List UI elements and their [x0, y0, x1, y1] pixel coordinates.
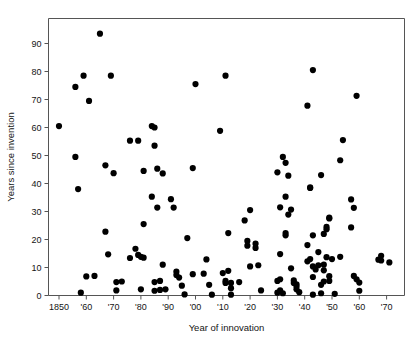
data-point: [151, 143, 157, 149]
data-point: [304, 242, 310, 248]
data-point: [141, 221, 147, 227]
data-point: [277, 251, 283, 257]
data-point: [247, 263, 253, 269]
data-point: [119, 278, 125, 284]
x-axis-tick-label: '70: [381, 302, 393, 312]
data-point: [337, 157, 343, 163]
data-point: [108, 73, 114, 79]
data-point: [280, 290, 286, 296]
data-point: [176, 274, 182, 280]
data-point: [282, 194, 288, 200]
y-axis-title: Years since invention: [5, 112, 16, 201]
data-point: [141, 168, 147, 174]
data-point: [83, 273, 89, 279]
x-axis-tick-label: 1850: [49, 302, 69, 312]
data-point: [348, 196, 354, 202]
data-point: [184, 235, 190, 241]
data-point: [228, 280, 234, 286]
data-point: [157, 287, 163, 293]
data-point: [190, 165, 196, 171]
data-point: [105, 251, 111, 257]
data-point: [160, 262, 166, 268]
data-point: [179, 283, 185, 289]
x-axis-tick-label: '20: [244, 302, 256, 312]
data-point: [86, 98, 92, 104]
data-point: [285, 173, 291, 179]
data-point: [225, 230, 231, 236]
x-axis-tick-label: '10: [217, 302, 229, 312]
y-axis-tick-label: 10: [31, 263, 41, 273]
y-axis-tick-label: 40: [31, 179, 41, 189]
data-point: [154, 166, 160, 172]
x-axis-tick-label: '60: [80, 302, 92, 312]
data-point: [149, 194, 155, 200]
data-point: [307, 185, 313, 191]
data-point: [113, 287, 119, 293]
x-axis-tick-label: '40: [299, 302, 311, 312]
data-point: [206, 282, 212, 288]
data-point: [288, 206, 294, 212]
data-point: [56, 123, 62, 129]
y-axis-tick-label: 30: [31, 207, 41, 217]
data-point: [323, 226, 329, 232]
data-point: [307, 256, 313, 262]
data-point: [277, 276, 283, 282]
x-axis-tick-label: '80: [135, 302, 147, 312]
data-point: [332, 291, 338, 297]
data-point: [321, 262, 327, 268]
y-axis-tick-label: 50: [31, 151, 41, 161]
data-point: [247, 207, 253, 213]
data-point: [141, 255, 147, 261]
x-axis-tick-label: '30: [272, 302, 284, 312]
data-point: [348, 224, 354, 230]
data-point: [113, 279, 119, 285]
data-point: [151, 279, 157, 285]
data-point: [280, 154, 286, 160]
data-point: [310, 232, 316, 238]
data-point: [222, 73, 228, 79]
data-point: [228, 285, 234, 291]
data-point: [127, 138, 133, 144]
data-point: [91, 273, 97, 279]
data-point: [181, 291, 187, 297]
data-point: [72, 154, 78, 160]
data-point: [274, 169, 280, 175]
data-point: [282, 232, 288, 238]
data-point: [220, 270, 226, 276]
data-point: [386, 259, 392, 265]
data-point: [326, 278, 332, 284]
data-point: [356, 288, 362, 294]
data-point: [315, 249, 321, 255]
y-axis-tick-label: 80: [31, 67, 41, 77]
data-point: [340, 137, 346, 143]
data-point: [162, 286, 168, 292]
data-point: [75, 186, 81, 192]
data-point: [97, 31, 103, 37]
data-point: [277, 204, 283, 210]
data-point: [356, 280, 362, 286]
x-axis-tick-label: '60: [353, 302, 365, 312]
y-axis-tick-label: 90: [31, 39, 41, 49]
data-point: [323, 254, 329, 260]
data-point: [209, 292, 215, 298]
x-axis-tick-label: '50: [326, 302, 338, 312]
data-point: [203, 256, 209, 262]
data-point: [102, 229, 108, 235]
data-point: [326, 215, 332, 221]
x-axis-tick-label: '90: [162, 302, 174, 312]
data-point: [201, 271, 207, 277]
data-point: [258, 287, 264, 293]
data-point: [171, 204, 177, 210]
data-point: [151, 288, 157, 294]
x-axis-title: Year of innovation: [189, 322, 265, 333]
y-axis-tick-label: 60: [31, 123, 41, 133]
data-point: [154, 204, 160, 210]
x-axis-tick-label: '00: [190, 302, 202, 312]
plot-frame: [49, 19, 405, 296]
data-point: [135, 138, 141, 144]
data-point: [151, 124, 157, 130]
y-axis-tick-label: 20: [31, 235, 41, 245]
scatter-plot-figure: 01020304050607080901850'60'70'80'90'00'1…: [0, 0, 419, 337]
data-point: [329, 256, 335, 262]
data-point: [244, 243, 250, 249]
